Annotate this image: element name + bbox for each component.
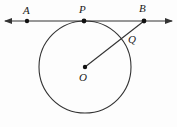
point-A	[25, 19, 29, 23]
point-label-q: Q	[128, 34, 136, 45]
geometry-figure: A P B Q O	[0, 0, 177, 127]
point-O	[83, 65, 87, 69]
point-label-a: A	[23, 5, 30, 16]
point-P	[82, 19, 87, 24]
point-label-p: P	[79, 4, 86, 15]
arrow-right-icon	[165, 18, 173, 24]
point-B	[142, 19, 147, 24]
figure-canvas	[0, 0, 177, 127]
point-label-o: O	[79, 72, 87, 83]
arrow-left-icon	[4, 18, 12, 24]
point-label-b: B	[139, 3, 146, 14]
